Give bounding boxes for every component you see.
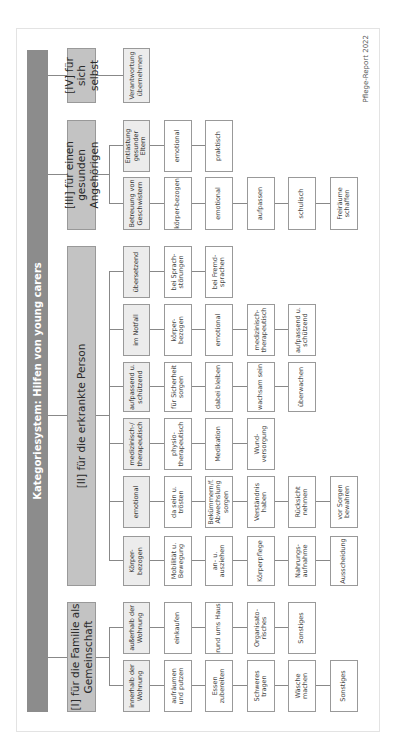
- category-I-box: [I] für die Familie als Gemeinschaft: [67, 602, 96, 712]
- leaf-item: medizinisch-therapeutisch: [247, 304, 275, 356]
- category-II-label: [II] für die erkrankte Person: [75, 344, 87, 489]
- connector: [109, 386, 123, 387]
- group-uebersetzend: übersetzend: [123, 246, 150, 298]
- leaf-label: Schweres tragen: [254, 661, 269, 711]
- diagram-stage: Kategoriesystem: Hilfen von young carers…: [0, 0, 396, 751]
- leaf-item: Essen zubereiten: [205, 660, 233, 712]
- footer-text: Pflege-Report 2022: [362, 35, 370, 102]
- connector: [96, 174, 109, 175]
- connector: [109, 146, 110, 204]
- connector: [96, 415, 109, 416]
- leaf-item: emotional: [205, 304, 233, 356]
- connector: [109, 329, 123, 330]
- leaf-label: Organisato-risches: [254, 603, 269, 653]
- connector: [96, 657, 109, 658]
- leaf-item: aufpassen: [247, 177, 275, 230]
- group-label: Verantwortung übernehmen: [129, 49, 144, 102]
- category-IV-label: [IV] für sich selbst: [63, 49, 99, 102]
- leaf-item: Wund-versorgung: [247, 418, 275, 470]
- connector: [109, 685, 123, 686]
- category-III-box: [III] für einen gesunden Angehörigen: [67, 120, 96, 230]
- leaf-label: Sonstiges: [298, 612, 305, 643]
- leaf-label: physio-therapeutisch: [171, 419, 186, 469]
- connector: [109, 443, 123, 444]
- leaf-item: Sonstiges: [288, 602, 316, 654]
- leaf-item: Verständnis haben: [247, 476, 275, 528]
- leaf-label: medizinisch-therapeutisch: [254, 305, 269, 355]
- leaf-item: an- u. ausziehen: [205, 536, 233, 586]
- group-label: Körper-bezogen: [129, 537, 144, 585]
- diagram-title: Kategoriesystem: Hilfen von young carers: [32, 262, 44, 500]
- group-innerhalb-wohnung: innerhalb der Wohnung: [123, 660, 150, 712]
- source-footer: Pflege-Report 2022: [362, 35, 370, 105]
- leaf-label: emotional: [215, 187, 222, 220]
- leaf-label: Verständnis haben: [254, 477, 269, 527]
- leaf-label: aufräumen und putzen: [171, 661, 186, 711]
- leaf-label: Essen zubereiten: [212, 661, 227, 711]
- leaf-label: körper-bezogen: [174, 178, 181, 229]
- connector: [109, 628, 110, 686]
- group-koerperbezogen: Körper-bezogen: [123, 536, 150, 586]
- leaf-item: schulisch: [288, 177, 316, 230]
- leaf-item: körper-bezogen: [164, 177, 192, 230]
- leaf-label: rund ums Haus: [215, 603, 222, 652]
- leaf-item: Schweres tragen: [247, 660, 275, 712]
- leaf-item: Organisato-risches: [247, 602, 275, 654]
- leaf-item: Medikation: [205, 418, 233, 470]
- leaf-label: für Sicherheit sorgen: [171, 363, 186, 411]
- leaf-label: dabei bleiben: [215, 365, 222, 409]
- leaf-item: Sonstiges: [330, 660, 358, 712]
- leaf-label: Mobilität u. Bewegung: [171, 537, 186, 585]
- group-label: übersetzend: [133, 252, 140, 293]
- category-II-box: [II] für die erkrankte Person: [67, 246, 96, 586]
- leaf-item: emotional: [164, 120, 192, 172]
- leaf-label: Ausscheidung: [340, 538, 347, 583]
- connector: [109, 501, 123, 502]
- leaf-item: wachsam sein: [247, 362, 275, 412]
- leaf-item: dabei bleiben: [205, 362, 233, 412]
- leaf-item: Mobilität u. Bewegung: [164, 536, 192, 586]
- leaf-label: vor Sorgen bewahren: [337, 477, 352, 527]
- leaf-label: schulisch: [298, 189, 305, 219]
- leaf-item: physio-therapeutisch: [164, 418, 192, 470]
- leaf-item: aufräumen und putzen: [164, 660, 192, 712]
- leaf-item: vor Sorgen bewahren: [330, 476, 358, 528]
- group-verantwortung: Verantwortung übernehmen: [123, 48, 150, 103]
- leaf-item: praktisch: [205, 120, 233, 172]
- leaf-item: da sein u. trösten: [164, 476, 192, 528]
- leaf-item: körper-bezogen: [164, 304, 192, 356]
- connector: [109, 145, 123, 146]
- leaf-item: Ausscheidung: [330, 536, 358, 586]
- leaf-label: überwachen: [298, 367, 305, 407]
- leaf-label: Medikation: [215, 426, 222, 462]
- group-label: emotional: [133, 486, 140, 519]
- category-IV-box: [IV] für sich selbst: [67, 48, 96, 103]
- leaf-item: rund ums Haus: [205, 602, 233, 654]
- leaf-label: Wäsche machen: [295, 661, 310, 711]
- leaf-item: für Sicherheit sorgen: [164, 362, 192, 412]
- leaf-item: Nahrungs-aufnahme: [288, 536, 316, 586]
- leaf-item: Bekümmern/f. Abwechslung sorgen: [205, 476, 233, 528]
- leaf-item: einkaufen: [164, 602, 192, 654]
- group-label: aufpassend u. schützend: [129, 363, 144, 411]
- leaf-item: überwachen: [288, 362, 316, 412]
- leaf-label: aufpassen: [257, 187, 264, 220]
- group-label: innerhalb der Wohnung: [129, 661, 144, 711]
- group-entlastung-eltern: Entlastung gesunder Eltern: [123, 120, 150, 172]
- leaf-label: praktisch: [215, 131, 222, 161]
- leaf-label: aufpassend u. schützend: [295, 305, 310, 355]
- group-betreuung-geschwister: Betreuung von Geschwistern: [123, 177, 150, 230]
- group-label: Entlastung gesunder Eltern: [125, 121, 147, 171]
- leaf-label: Sonstiges: [340, 670, 347, 701]
- leaf-label: da sein u. trösten: [171, 477, 186, 527]
- leaf-label: einkaufen: [174, 612, 181, 644]
- connector: [48, 415, 67, 416]
- group-label: außerhalb der Wohnung: [129, 603, 144, 653]
- connector: [109, 271, 123, 272]
- leaf-label: an- u. ausziehen: [212, 537, 227, 585]
- leaf-label: emotional: [215, 314, 222, 347]
- connector: [48, 657, 67, 658]
- leaf-item: Freiräume schaffen: [330, 177, 358, 230]
- category-I-label: [I] für die Familie als Gemeinschaft: [69, 603, 93, 711]
- leaf-item: aufpassend u. schützend: [288, 304, 316, 356]
